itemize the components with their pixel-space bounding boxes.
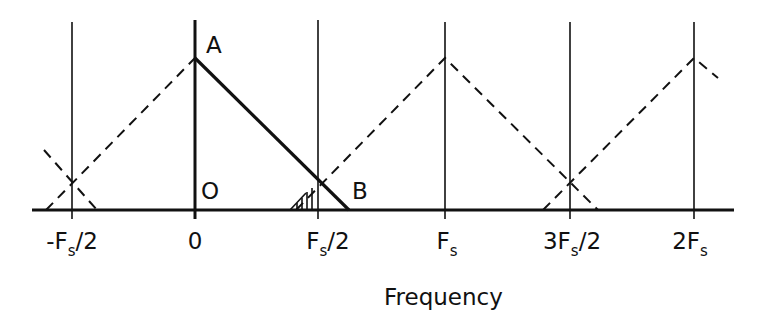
tick-label-3fs-half: 3Fs/2 — [543, 230, 601, 259]
x-axis-label: Frequency — [384, 286, 503, 309]
tick-label-fs-half: Fs/2 — [306, 230, 349, 259]
diagram-graphics — [0, 0, 760, 330]
tick-label-2fs: 2Fs — [672, 230, 708, 259]
point-label-o: O — [201, 180, 219, 203]
aliased-spectra — [44, 58, 718, 210]
point-label-b: B — [352, 180, 368, 203]
tick-label-neg-fs-half: -Fs/2 — [46, 230, 98, 259]
aliasing-diagram: A O B -Fs/2 0 Fs/2 Fs 3Fs/2 2Fs Frequenc… — [0, 0, 760, 330]
alias-hatch — [290, 188, 312, 210]
tick-label-zero: 0 — [188, 230, 203, 253]
point-label-a: A — [206, 34, 222, 57]
tick-label-fs: Fs — [436, 230, 457, 259]
